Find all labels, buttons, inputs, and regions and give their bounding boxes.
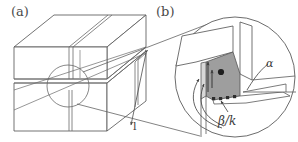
panel-a-block (14, 15, 146, 131)
figure-drawing (0, 0, 298, 142)
panel-label-b: (b) (156, 4, 174, 19)
block-front-upper-face (14, 47, 107, 79)
detail-plate-left-wall (201, 62, 206, 99)
ratio-label-beta-over-k: β/k (218, 114, 236, 128)
detail-upper-right-face (240, 22, 252, 80)
angle-label-alpha: α (266, 57, 273, 70)
figure-container: (a) (b) l α β/k (0, 0, 298, 142)
panel-label-a: (a) (11, 4, 29, 19)
filled-dot-marker (218, 69, 224, 75)
length-label-l: l (133, 120, 137, 133)
